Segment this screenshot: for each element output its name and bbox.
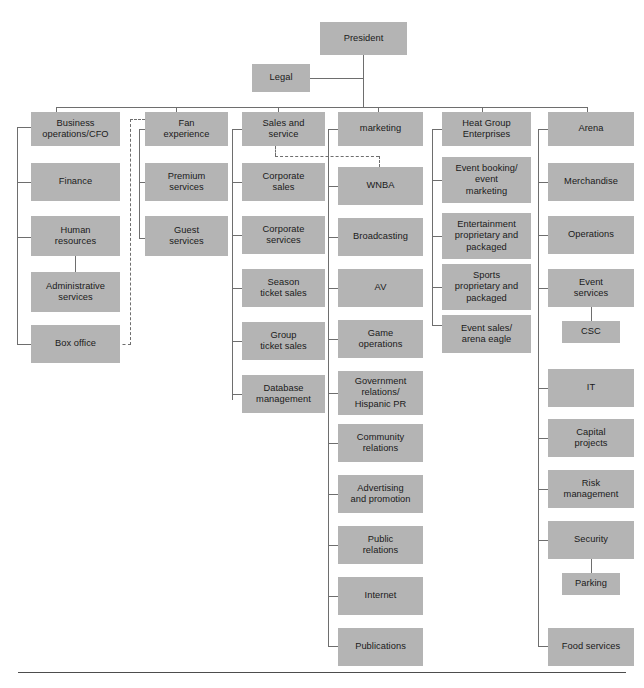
node-human-resources[interactable]: Human resources bbox=[31, 216, 120, 256]
node-corporate-services[interactable]: Corporate services bbox=[242, 216, 325, 254]
node-administrative-services-label: Administrative services bbox=[33, 281, 118, 304]
node-business-operations-label: Business operations/CFO bbox=[33, 118, 118, 141]
node-av[interactable]: AV bbox=[338, 269, 423, 307]
node-security-label: Security bbox=[550, 534, 632, 545]
node-merchandise-label: Merchandise bbox=[550, 176, 632, 187]
node-corporate-sales[interactable]: Corporate sales bbox=[242, 163, 325, 201]
node-operations-label: Operations bbox=[550, 229, 632, 240]
connector-dashed-sales-down bbox=[275, 146, 276, 156]
connector-stub-finance bbox=[17, 182, 32, 183]
node-parking[interactable]: Parking bbox=[562, 573, 620, 595]
node-csc[interactable]: CSC bbox=[562, 321, 620, 343]
node-administrative-services[interactable]: Administrative services bbox=[31, 272, 120, 312]
node-finance[interactable]: Finance bbox=[31, 163, 120, 201]
node-finance-label: Finance bbox=[33, 176, 118, 187]
node-marketing[interactable]: marketing bbox=[338, 112, 423, 146]
node-advertising-and-promotion-label: Advertising and promotion bbox=[340, 483, 421, 506]
connector-stub-human-resources bbox=[17, 237, 32, 238]
node-premium-services[interactable]: Premium services bbox=[145, 163, 228, 201]
connector-spine-business-operations bbox=[17, 127, 18, 344]
connector-legal-to-stem bbox=[309, 78, 364, 79]
node-broadcasting-label: Broadcasting bbox=[340, 231, 421, 242]
connector-president-stem bbox=[363, 55, 364, 108]
node-database-management[interactable]: Database management bbox=[242, 375, 325, 413]
node-wnba[interactable]: WNBA bbox=[338, 167, 423, 205]
connector-dashed-fan-experience-top bbox=[130, 119, 145, 120]
node-entertainment-proprietary[interactable]: Entertainment proprietary and packaged bbox=[442, 213, 531, 259]
node-wnba-label: WNBA bbox=[340, 180, 421, 191]
node-food-services-label: Food services bbox=[550, 641, 632, 652]
node-csc-label: CSC bbox=[564, 326, 618, 337]
node-sales-and-service-label: Sales and service bbox=[244, 118, 323, 141]
node-president[interactable]: President bbox=[320, 22, 407, 55]
node-guest-services[interactable]: Guest services bbox=[145, 216, 228, 256]
node-game-operations[interactable]: Game operations bbox=[338, 320, 423, 358]
node-public-relations-label: Public relations bbox=[340, 534, 421, 557]
node-sports-proprietary-label: Sports proprietary and packaged bbox=[444, 270, 529, 304]
node-it-label: IT bbox=[550, 382, 632, 393]
node-arena[interactable]: Arena bbox=[548, 112, 634, 146]
connector-dashed-fan-experience-vertical bbox=[130, 119, 131, 345]
node-database-management-label: Database management bbox=[244, 383, 323, 406]
connector-security-to-parking bbox=[591, 559, 592, 573]
node-sports-proprietary[interactable]: Sports proprietary and packaged bbox=[442, 264, 531, 310]
node-advertising-and-promotion[interactable]: Advertising and promotion bbox=[338, 475, 423, 513]
node-publications-label: Publications bbox=[340, 641, 421, 652]
node-legal-label: Legal bbox=[254, 72, 308, 83]
node-government-relations-label: Government relations/ Hispanic PR bbox=[340, 376, 421, 410]
node-security[interactable]: Security bbox=[548, 521, 634, 559]
node-broadcasting[interactable]: Broadcasting bbox=[338, 218, 423, 256]
node-av-label: AV bbox=[340, 282, 421, 293]
node-sales-and-service[interactable]: Sales and service bbox=[242, 112, 325, 146]
node-government-relations[interactable]: Government relations/ Hispanic PR bbox=[338, 371, 423, 415]
node-heat-group-enterprises[interactable]: Heat Group Enterprises bbox=[442, 112, 531, 146]
node-public-relations[interactable]: Public relations bbox=[338, 526, 423, 564]
node-human-resources-label: Human resources bbox=[33, 225, 118, 248]
node-fan-experience[interactable]: Fan experience bbox=[145, 112, 228, 146]
node-game-operations-label: Game operations bbox=[340, 328, 421, 351]
node-president-label: President bbox=[322, 33, 405, 44]
node-community-relations[interactable]: Community relations bbox=[338, 424, 423, 462]
node-risk-management[interactable]: Risk management bbox=[548, 470, 634, 508]
node-capital-projects-label: Capital projects bbox=[550, 427, 632, 450]
node-fan-experience-label: Fan experience bbox=[147, 118, 226, 141]
node-community-relations-label: Community relations bbox=[340, 432, 421, 455]
node-box-office[interactable]: Box office bbox=[31, 325, 120, 363]
node-capital-projects[interactable]: Capital projects bbox=[548, 419, 634, 457]
node-season-ticket-sales[interactable]: Season ticket sales bbox=[242, 269, 325, 307]
node-business-operations[interactable]: Business operations/CFO bbox=[31, 112, 120, 146]
node-heat-group-enterprises-label: Heat Group Enterprises bbox=[444, 118, 529, 141]
node-food-services[interactable]: Food services bbox=[548, 628, 634, 666]
node-it[interactable]: IT bbox=[548, 369, 634, 407]
node-publications[interactable]: Publications bbox=[338, 628, 423, 666]
connector-dashed-sales-to-wnba bbox=[275, 156, 379, 157]
node-legal[interactable]: Legal bbox=[252, 64, 310, 92]
node-group-ticket-sales-label: Group ticket sales bbox=[244, 330, 323, 353]
node-marketing-label: marketing bbox=[340, 123, 421, 134]
node-corporate-sales-label: Corporate sales bbox=[244, 171, 323, 194]
node-corporate-services-label: Corporate services bbox=[244, 224, 323, 247]
connector-division-bus bbox=[56, 107, 587, 108]
node-event-sales-arena-eagle[interactable]: Event sales/ arena eagle bbox=[442, 315, 531, 353]
node-group-ticket-sales[interactable]: Group ticket sales bbox=[242, 322, 325, 360]
node-arena-label: Arena bbox=[550, 123, 632, 134]
connector-stub-business-operations bbox=[17, 127, 32, 128]
connector-spine-sales-and-service bbox=[232, 129, 233, 400]
node-internet-label: Internet bbox=[340, 590, 421, 601]
node-operations[interactable]: Operations bbox=[548, 216, 634, 254]
connector-dashed-wnba-up bbox=[379, 156, 380, 167]
node-internet[interactable]: Internet bbox=[338, 577, 423, 615]
connector-event-services-to-csc bbox=[591, 307, 592, 321]
node-premium-services-label: Premium services bbox=[147, 171, 226, 194]
node-entertainment-proprietary-label: Entertainment proprietary and packaged bbox=[444, 219, 529, 253]
node-event-booking[interactable]: Event booking/ event marketing bbox=[442, 157, 531, 203]
connector-spine-heat-group bbox=[432, 129, 433, 325]
connector-spine-fan-experience bbox=[139, 129, 140, 239]
footer-rule bbox=[18, 672, 626, 673]
node-event-services-label: Event services bbox=[550, 277, 632, 300]
node-event-booking-label: Event booking/ event marketing bbox=[444, 163, 529, 197]
node-event-services[interactable]: Event services bbox=[548, 269, 634, 307]
node-merchandise[interactable]: Merchandise bbox=[548, 163, 634, 201]
node-risk-management-label: Risk management bbox=[550, 478, 632, 501]
node-guest-services-label: Guest services bbox=[147, 225, 226, 248]
